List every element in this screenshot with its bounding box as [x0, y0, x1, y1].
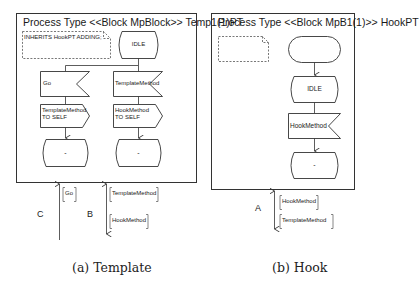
output-line-1: HookMethod [115, 107, 149, 114]
channel-c-label: C [37, 209, 44, 219]
template-process-title: Process Type <<Block MpBlock>> Temp1(1)P… [23, 16, 243, 28]
channel-c-signal: Go [65, 190, 73, 196]
templatemethod-output-label: TemplateMethod TO SELF [42, 107, 86, 121]
template-right-next-state-label: - [114, 149, 163, 156]
hookmethod-input-label: HookMethod [290, 122, 327, 129]
templatemethod-input-label: TemplateMethod [115, 80, 159, 86]
channel-b-signal-out: HookMethod [112, 217, 146, 223]
output-line-1: TemplateMethod [42, 107, 86, 114]
template-caption: (a) Template [72, 260, 152, 275]
hook-process-title: Process Type <<Block MpB1(1)>> HookPT [218, 16, 419, 28]
go-input-label: Go [43, 80, 51, 86]
hook-start-terminal [289, 37, 341, 63]
hook-next-state-label: - [289, 161, 340, 168]
channel-b-label: B [87, 209, 93, 219]
template-comment-text: INHERITS HookPT ADDING; [24, 34, 102, 40]
hook-idle-label: IDLE [289, 85, 340, 92]
channel-a-signal-out: TemplateMethod [282, 217, 326, 223]
channel-a-signal-in: HookMethod [282, 198, 316, 204]
template-idle-label: IDLE [117, 41, 160, 47]
channel-a-label: A [255, 203, 261, 213]
output-line-2: TO SELF [42, 114, 86, 121]
channel-b-signal-in: TemplateMethod [112, 190, 156, 196]
hookmethod-output-label: HookMethod TO SELF [115, 107, 149, 121]
output-line-2: TO SELF [115, 114, 149, 121]
template-left-next-state-label: - [41, 149, 90, 156]
hook-caption: (b) Hook [272, 260, 327, 275]
hook-comment-box [219, 37, 269, 62]
